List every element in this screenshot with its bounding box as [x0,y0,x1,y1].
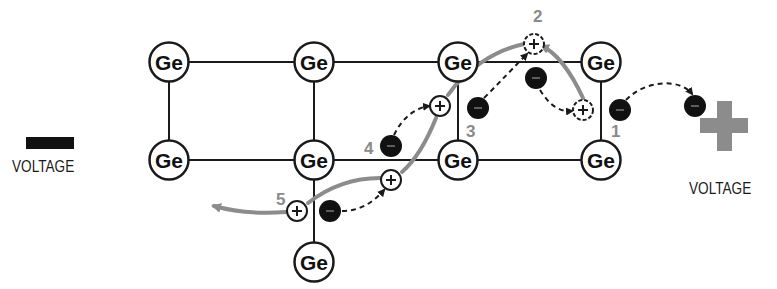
positive-voltage-label: VOLTAGE [689,180,751,198]
ge-atom: Ge [439,141,478,180]
electrons [319,67,706,222]
atom-symbol: Ge [444,51,472,74]
ge-atom: Ge [150,43,189,82]
step-number-label: 5 [276,190,285,209]
ge-atom: Ge [582,43,621,82]
ge-atom: Ge [295,43,334,82]
atom-symbol: Ge [587,51,615,74]
step-number-label: 2 [533,7,542,26]
step-number-label: 4 [364,139,374,158]
ge-atom: Ge [150,141,189,180]
electron-minus-icon [609,99,631,121]
ge-atom: Ge [582,141,621,180]
atom-symbol: Ge [444,149,472,172]
hole-plus-icon [381,170,401,190]
atom-symbol: Ge [300,149,328,172]
covalent-bonds [169,62,601,262]
ge-atom: Ge [439,43,478,82]
hole-plus-icon [287,201,307,221]
germanium-atoms: GeGeGeGeGeGeGeGeGe [150,43,621,282]
step-number-label: 3 [466,122,475,141]
negative-voltage-icon [26,137,74,149]
hole-plus-icon [524,34,544,54]
electron-minus-icon [319,200,341,222]
electron-minus-icon [525,67,547,89]
negative-voltage-label: VOLTAGE [12,158,74,176]
ge-atom: Ge [295,141,334,180]
atom-symbol: Ge [155,149,183,172]
atom-symbol: Ge [587,149,615,172]
hole-plus-icon [430,96,450,116]
ge-atom: Ge [295,243,334,282]
atom-symbol: Ge [300,51,328,74]
electron-minus-icon [467,97,489,119]
electron-minus-icon [684,95,706,117]
atom-symbol: Ge [155,51,183,74]
atom-symbol: Ge [300,251,328,274]
positive-voltage-icon [700,101,748,151]
germanium-lattice-diagram: GeGeGeGeGeGeGeGeGe 12345 [0,0,777,289]
step-number-label: 1 [611,122,620,141]
electron-minus-icon [380,135,402,157]
hole-plus-icon [573,100,593,120]
